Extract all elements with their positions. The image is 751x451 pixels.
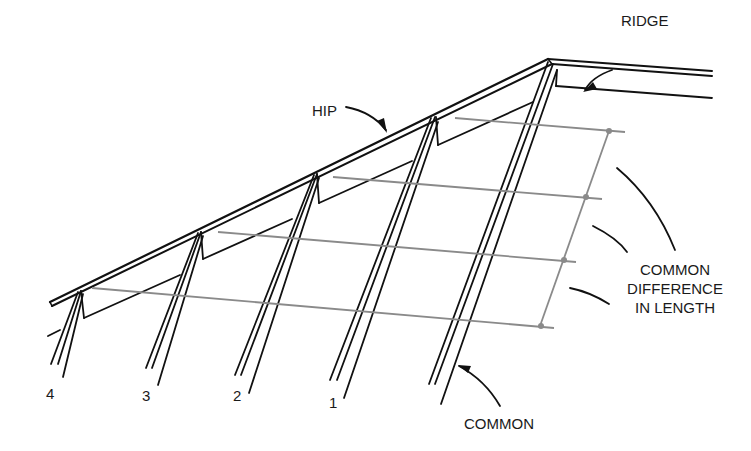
- roof-framing-diagram: RIDGE HIP COMMON COMMON DIFFERENCE IN LE…: [0, 0, 751, 451]
- rafter-number-1: 1: [329, 395, 337, 410]
- length-difference-dimensions: [92, 118, 625, 329]
- rafter-number-4: 4: [46, 386, 54, 401]
- leader-lines: [346, 70, 675, 406]
- common-difference-line-1: COMMON: [620, 260, 730, 279]
- hip-arrow-icon: [377, 118, 387, 133]
- diagram-drawing: [0, 0, 751, 451]
- rafter-number-2: 2: [233, 388, 241, 403]
- common-difference-label: COMMON DIFFERENCE IN LENGTH: [620, 260, 730, 317]
- common-difference-line-2: DIFFERENCE: [620, 279, 730, 298]
- ridge-label: RIDGE: [621, 13, 669, 28]
- common-label: COMMON: [464, 416, 534, 431]
- rafter-number-3: 3: [142, 388, 150, 403]
- hip-label: HIP: [312, 103, 337, 118]
- common-difference-line-3: IN LENGTH: [620, 298, 730, 317]
- ridge-board: [548, 59, 712, 98]
